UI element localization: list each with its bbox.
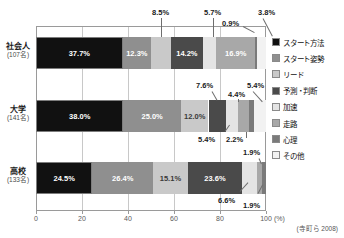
legend-item-psychology[interactable]: 心理 — [272, 131, 342, 147]
legend-label: 加速 — [283, 101, 297, 112]
bar-segment-start-method: 38.0% — [36, 100, 123, 132]
bar-segment-acceleration — [242, 162, 257, 194]
bar-segment-start-posture: 25.0% — [123, 100, 181, 132]
leader-line — [213, 18, 214, 37]
bar-segment-other — [257, 37, 266, 69]
xtick-label-40: 40 — [124, 215, 132, 222]
legend-swatch-icon — [272, 135, 280, 143]
bar-segment-prediction: 14.2% — [171, 37, 204, 69]
bar-row-koukou: 24.5% 26.4% 15.1% 23.6% — [36, 162, 266, 194]
leader-line — [161, 18, 162, 37]
xtick-0 — [36, 211, 37, 214]
legend-label: 予測・判断 — [283, 85, 317, 96]
legend-swatch-icon — [272, 119, 280, 127]
stacked-bar: 37.7% 12.3% 14.2% 16.9% — [36, 37, 266, 69]
legend-item-start-method[interactable]: スタート方法 — [272, 34, 342, 50]
callout-r1-acceleration: 5.7% — [204, 8, 221, 17]
stacked-bar: 24.5% 26.4% 15.1% 23.6% — [36, 162, 266, 194]
legend-swatch-icon — [272, 70, 280, 78]
xtick-60 — [174, 211, 175, 214]
bar-segment-lead: 12.0% — [181, 100, 209, 132]
bar-segment-course — [238, 100, 248, 132]
callout-r2-psychology: 2.2% — [226, 135, 243, 144]
bar-segment-start-posture: 12.3% — [123, 37, 151, 69]
category-count: (141名) — [1, 114, 35, 121]
callout-r1-lead: 8.5% — [152, 8, 169, 17]
category-count: (107名) — [1, 51, 35, 58]
legend-label: スタート姿勢 — [283, 53, 324, 64]
legend: スタート方法 スタート姿勢 リード 予測・判断 加速 走路 心理 その他 — [272, 34, 342, 164]
callout-r3-course: 1.9% — [243, 148, 260, 157]
legend-item-course[interactable]: 走路 — [272, 115, 342, 131]
category-label-shakaijin: 社会人 (107名) — [1, 42, 35, 59]
legend-label: スタート方法 — [283, 37, 324, 48]
bar-segment-other — [254, 100, 266, 132]
xtick-100 — [266, 211, 267, 214]
xtick-label-80: 80 — [216, 215, 224, 222]
bar-segment-lead — [151, 37, 171, 69]
bar-segment-lead: 15.1% — [153, 162, 188, 194]
legend-label: 心理 — [283, 134, 297, 145]
bar-segment-psychology — [262, 162, 266, 194]
xtick-label-60: 60 — [170, 215, 178, 222]
xtick-label-100: 100 — [260, 215, 272, 222]
stacked-bar-chart: 社会人 (107名) 大学 (141名) 高校 (133名) 37.7% 12.… — [0, 0, 344, 238]
callout-r1-other: 3.8% — [258, 8, 275, 17]
legend-swatch-icon — [272, 38, 280, 46]
bar-segment-start-method: 24.5% — [36, 162, 92, 194]
legend-swatch-icon — [272, 54, 280, 62]
bar-row-daigaku: 38.0% 25.0% 12.0% — [36, 100, 266, 132]
legend-label: リード — [283, 69, 303, 80]
bar-segment-acceleration — [203, 37, 216, 69]
bar-segment-prediction: 23.6% — [188, 162, 242, 194]
legend-item-lead[interactable]: リード — [272, 66, 342, 82]
xtick-40 — [128, 211, 129, 214]
category-name: 社会人 — [1, 42, 35, 51]
legend-swatch-icon — [272, 103, 280, 111]
stacked-bar: 38.0% 25.0% 12.0% — [36, 100, 266, 132]
category-count: (133名) — [1, 176, 35, 183]
bar-segment-start-method: 37.7% — [36, 37, 123, 69]
category-label-daigaku: 大学 (141名) — [1, 105, 35, 122]
bar-segment-start-posture: 26.4% — [92, 162, 153, 194]
legend-label: 走路 — [283, 118, 297, 129]
bar-segment-course: 16.9% — [216, 37, 255, 69]
xaxis-unit-label: (%) — [274, 215, 285, 222]
legend-item-prediction[interactable]: 予測・判断 — [272, 83, 342, 99]
callout-r2-prediction: 7.6% — [196, 81, 213, 90]
callout-r3-psychology: 1.9% — [243, 201, 260, 210]
xtick-label-0: 0 — [34, 215, 38, 222]
source-note: (寺町ら 2008) — [296, 223, 338, 233]
xtick-label-20: 20 — [78, 215, 86, 222]
xtick-20 — [82, 211, 83, 214]
category-name: 大学 — [1, 105, 35, 114]
legend-item-start-posture[interactable]: スタート姿勢 — [272, 50, 342, 66]
callout-r2-other: 5.4% — [247, 81, 264, 90]
xtick-80 — [220, 211, 221, 214]
callout-r1-psychology: 0.9% — [222, 19, 239, 28]
legend-item-acceleration[interactable]: 加速 — [272, 99, 342, 115]
category-label-koukou: 高校 (133名) — [1, 167, 35, 184]
bar-segment-prediction — [209, 100, 226, 132]
leader-line — [246, 132, 247, 138]
legend-item-other[interactable]: その他 — [272, 147, 342, 163]
callout-r2-acceleration: 5.4% — [198, 135, 215, 144]
leader-line — [238, 99, 239, 102]
legend-label: その他 — [283, 150, 303, 161]
callout-r3-acceleration: 6.6% — [218, 196, 235, 205]
callout-r2-course: 4.4% — [228, 90, 245, 99]
legend-swatch-icon — [272, 151, 280, 159]
legend-swatch-icon — [272, 87, 280, 95]
category-name: 高校 — [1, 167, 35, 176]
bar-row-shakaijin: 37.7% 12.3% 14.2% 16.9% — [36, 37, 266, 69]
